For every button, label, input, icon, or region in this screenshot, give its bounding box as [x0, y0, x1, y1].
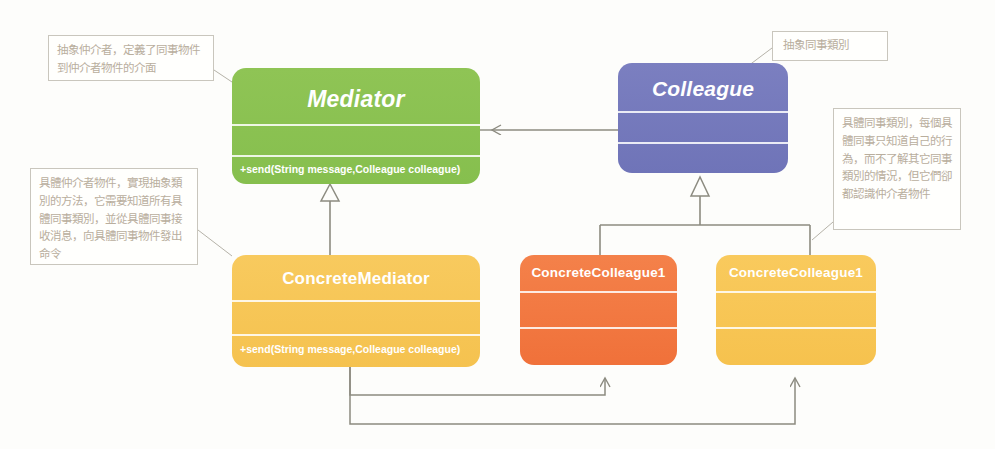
- relation-concrete-mediator-to-colleague2: [350, 367, 795, 424]
- class-method-concrete-mediator: +send(String message,Colleague colleague…: [240, 343, 474, 355]
- class-title-colleague: Colleague: [618, 77, 788, 101]
- relation-concrete-mediator-to-colleague1: [350, 367, 605, 395]
- class-separator: [618, 142, 788, 144]
- note-mediator: 抽象仲介者，定義了同事物件到仲介者物件的介面: [48, 35, 214, 81]
- class-title-concrete-colleague2: ConcreteColleague1: [716, 265, 876, 280]
- note-colleague: 抽象同事類別: [772, 31, 888, 61]
- class-title-mediator: Mediator: [232, 86, 480, 113]
- note-concrete-colleague: 具體同事類別，每個具體同事只知道自己的行為，而不了解其它同事類別的情況，但它們卻…: [833, 108, 961, 230]
- class-box-colleague[interactable]: Colleague: [618, 63, 788, 173]
- class-title-concrete-mediator: ConcreteMediator: [232, 269, 480, 289]
- relation-concrete-colleagues-to-colleague: [600, 177, 810, 255]
- class-separator: [232, 300, 480, 302]
- class-box-concrete-colleague2[interactable]: ConcreteColleague1: [716, 255, 876, 365]
- class-box-concrete-colleague1[interactable]: ConcreteColleague1: [520, 255, 677, 365]
- class-separator: [618, 111, 788, 113]
- class-method-mediator: +send(String message,Colleague colleague…: [240, 163, 474, 175]
- class-separator: [232, 124, 480, 126]
- class-separator: [716, 327, 876, 329]
- class-separator: [520, 291, 677, 293]
- relation-concrete-mediator-to-mediator: [321, 184, 339, 255]
- class-separator: [716, 291, 876, 293]
- class-box-concrete-mediator[interactable]: ConcreteMediator +send(String message,Co…: [232, 255, 480, 367]
- class-box-mediator[interactable]: Mediator +send(String message,Colleague …: [232, 68, 480, 184]
- class-separator: [232, 334, 480, 336]
- diagram-canvas: Mediator +send(String message,Colleague …: [0, 0, 995, 449]
- note-concrete-mediator: 具體仲介者物件，實現抽象類別的方法，它需要知道所有具體同事類別，並從具體同事接收…: [30, 168, 198, 265]
- class-separator: [520, 327, 677, 329]
- class-separator: [232, 155, 480, 157]
- class-title-concrete-colleague1: ConcreteColleague1: [520, 265, 677, 280]
